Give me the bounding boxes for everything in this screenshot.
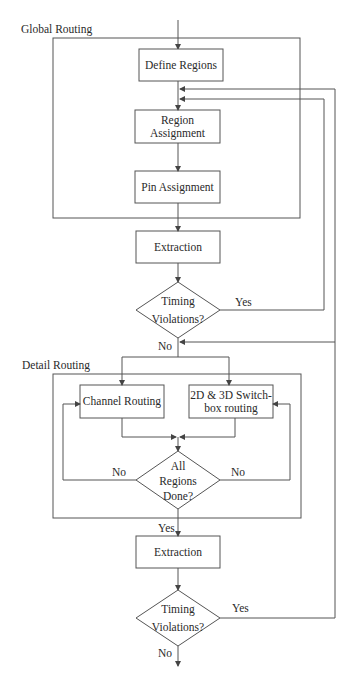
region-assignment-node: Region Assignment [135,110,220,143]
timing-1-node: Timing Violations? [136,290,220,330]
define-regions-text: Define Regions [145,59,217,72]
global-routing-label: Global Routing [21,23,92,36]
define-regions-node: Define Regions [139,49,223,81]
all-regions-text-line3: Done? [163,490,193,503]
timing-1-yes-label: Yes [235,296,252,309]
channel-routing-text: Channel Routing [83,395,161,408]
all-regions-done-node: All Regions Done? [136,459,220,503]
all-regions-text-line2: Regions [159,475,197,488]
channel-merge-arrow [122,418,176,437]
switchbox-merge-arrow [180,418,235,437]
all-regions-text-line1: All [171,460,186,473]
timing-2-node: Timing Violations? [136,598,220,638]
timing-2-text-line2: Violations? [152,621,204,634]
region-assignment-text-line2: Assignment [150,127,205,140]
pin-assignment-node: Pin Assignment [135,171,220,203]
extraction-2-text: Extraction [154,546,202,559]
extraction-1-node: Extraction [136,231,220,263]
extraction-1-text: Extraction [154,241,202,254]
channel-routing-node: Channel Routing [80,385,164,418]
timing-1-text-line1: Timing [161,295,194,308]
timing-1-text-line2: Violations? [152,313,204,326]
switchbox-routing-node: 2D & 3D Switch- box routing [189,385,273,418]
detail-routing-label: Detail Routing [22,359,90,372]
all-regions-no-left-label: No [112,466,126,479]
switchbox-text-line1: 2D & 3D Switch- [190,389,271,402]
extraction-2-node: Extraction [136,536,220,568]
timing-2-text-line1: Timing [161,603,194,616]
region-assignment-text-line1: Region [161,114,194,127]
all-regions-no-right-label: No [231,466,245,479]
flowchart-canvas [0,0,353,683]
switchbox-text-line2: box routing [204,402,257,415]
timing-2-no-label: No [158,647,172,660]
timing-2-yes-label: Yes [232,602,249,615]
timing-1-no-label: No [158,340,172,353]
pin-assignment-text: Pin Assignment [141,181,214,194]
all-regions-yes-label: Yes [158,522,175,535]
